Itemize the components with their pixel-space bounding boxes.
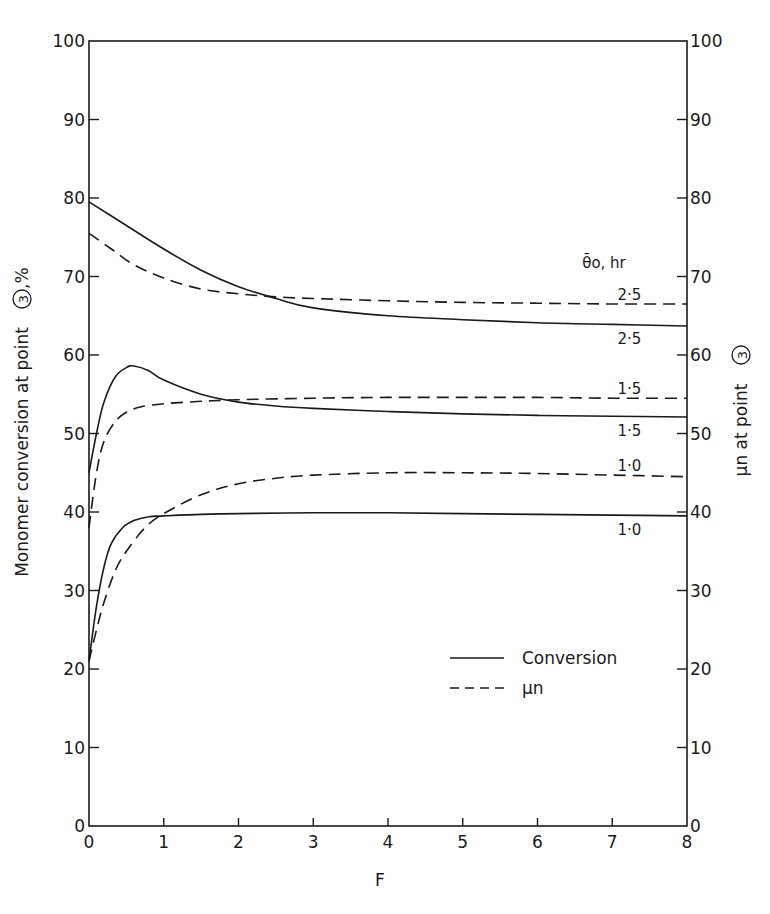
- legend-conversion-label: Conversion: [522, 648, 617, 668]
- y-right-tick-label: 10: [690, 738, 712, 758]
- x-tick-label: 1: [158, 832, 169, 852]
- y-right-tick-label: 20: [690, 659, 712, 679]
- curve-label-1·5: 1·5: [618, 380, 642, 398]
- mun-curve-1-5: [89, 397, 687, 527]
- y-left-tick-label: 80: [63, 188, 85, 208]
- y-axis-left-suffix: ,%: [12, 267, 32, 289]
- y-left-tick-label: 100: [53, 31, 85, 51]
- y-right-tick-label: 60: [690, 345, 712, 365]
- y-axis-left-title: Monomer conversion at point 3 ,%: [12, 267, 32, 576]
- x-tick-label: 3: [308, 832, 319, 852]
- plot-border: [89, 41, 687, 826]
- plot-frame: [89, 41, 687, 826]
- y-left-tick-label: 60: [63, 345, 85, 365]
- parameter-header: θ̄o, hr: [582, 253, 626, 272]
- axis-ticks: 0123456780102030405060708090100010203040…: [53, 31, 723, 852]
- y-right-tick-label: 100: [690, 31, 722, 51]
- curve-label-1·0: 1·0: [618, 457, 642, 475]
- curve-label-2·5: 2·5: [618, 330, 642, 348]
- x-tick-label: 2: [233, 832, 244, 852]
- y-axis-left-title-text: Monomer conversion at point: [12, 327, 32, 577]
- curve-label-1·5: 1·5: [618, 422, 642, 440]
- y-right-tick-label: 30: [690, 581, 712, 601]
- y-right-tick-label: 0: [690, 816, 701, 836]
- y-left-tick-label: 90: [63, 110, 85, 130]
- mun-curve-1-0: [89, 473, 687, 662]
- curve-label-2·5: 2·5: [618, 286, 642, 304]
- x-tick-label: 7: [607, 832, 618, 852]
- y-left-tick-label: 0: [74, 816, 85, 836]
- y-right-tick-label: 70: [690, 267, 712, 287]
- point-3-number: 3: [16, 295, 31, 303]
- y-left-tick-label: 40: [63, 502, 85, 522]
- y-axis-right-title-text: μn at point: [731, 383, 751, 476]
- conversion-curve-1-0: [89, 513, 687, 661]
- x-tick-label: 0: [84, 832, 95, 852]
- y-left-tick-label: 10: [63, 738, 85, 758]
- x-tick-label: 6: [532, 832, 543, 852]
- svg-text:μn at point: μn at point: [731, 383, 751, 476]
- conversion-curve-1-5: [89, 366, 687, 473]
- y-right-tick-label: 50: [690, 424, 712, 444]
- y-left-tick-label: 70: [63, 267, 85, 287]
- y-left-tick-label: 50: [63, 424, 85, 444]
- legend-mun-label: μn: [522, 678, 544, 698]
- y-right-tick-label: 40: [690, 502, 712, 522]
- svg-text:Monomer conversion at point: Monomer conversion at point: [12, 327, 32, 577]
- x-tick-label: 4: [383, 832, 394, 852]
- chart: 0123456780102030405060708090100010203040…: [0, 0, 770, 914]
- y-right-tick-label: 90: [690, 110, 712, 130]
- y-left-tick-label: 30: [63, 581, 85, 601]
- y-axis-right-title: μn at point 3: [731, 346, 751, 476]
- legend: Conversion μn: [450, 648, 617, 698]
- x-axis-title: F: [375, 870, 385, 890]
- point-3-number-right: 3: [735, 351, 750, 359]
- y-left-tick-label: 20: [63, 659, 85, 679]
- x-tick-label: 5: [457, 832, 468, 852]
- y-right-tick-label: 80: [690, 188, 712, 208]
- curve-label-1·0: 1·0: [618, 521, 642, 539]
